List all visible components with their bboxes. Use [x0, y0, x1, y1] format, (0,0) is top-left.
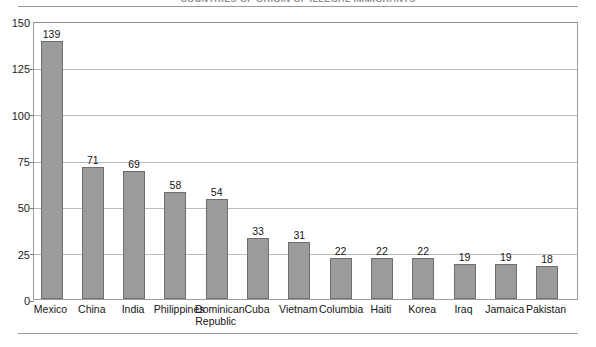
y-axis-tick-label: 125 [12, 63, 30, 75]
y-axis-tick-label: 50 [18, 202, 30, 214]
bar: 139 [41, 41, 63, 299]
bar: 22 [330, 258, 352, 299]
bar: 33 [247, 238, 269, 299]
x-axis-category-label: Iraq [443, 303, 484, 315]
bar: 58 [164, 192, 186, 299]
top-divider-rule [18, 6, 578, 7]
bar-value-label: 22 [335, 245, 347, 257]
x-axis-category-label: India [112, 303, 153, 315]
x-axis-category-label: Vietnam [278, 303, 319, 315]
bar-value-label: 19 [500, 251, 512, 263]
y-axis-tick-label: 25 [18, 249, 30, 261]
y-axis-tick-mark [30, 208, 34, 209]
bar: 19 [495, 264, 517, 299]
bar: 31 [288, 242, 310, 299]
y-axis-tick-mark [30, 254, 34, 255]
x-axis-category-label: Haiti [360, 303, 401, 315]
bar: 18 [536, 266, 558, 299]
bottom-divider-rule [18, 333, 578, 334]
x-axis-category-label: Columbia [319, 303, 360, 315]
gridline [34, 115, 577, 116]
bar-value-label: 19 [459, 251, 471, 263]
x-axis-category-label: China [71, 303, 112, 315]
bar-value-label: 58 [170, 179, 182, 191]
y-axis-tick-mark [30, 115, 34, 116]
bar-value-label: 71 [87, 154, 99, 166]
y-axis-tick-mark [30, 162, 34, 163]
gridline [34, 208, 577, 209]
bar: 22 [412, 258, 434, 299]
bar-value-label: 18 [541, 253, 553, 265]
x-axis-category-label: Jamaica [484, 303, 525, 315]
bar-value-label: 33 [252, 225, 264, 237]
x-axis-category-label: Philippines [154, 303, 195, 315]
y-axis-tick-mark [30, 69, 34, 70]
bar-value-label: 54 [211, 186, 223, 198]
bar: 71 [82, 167, 104, 299]
y-axis-tick-label: 150 [12, 17, 30, 29]
bar-value-label: 69 [128, 158, 140, 170]
bar-value-label: 22 [376, 245, 388, 257]
y-axis-tick-mark [30, 301, 34, 302]
bar-value-label: 31 [293, 229, 305, 241]
y-axis-tick-label: 100 [12, 110, 30, 122]
bar: 69 [123, 171, 145, 299]
bar: 22 [371, 258, 393, 299]
y-axis-tick-label: 75 [18, 156, 30, 168]
x-axis-category-label: Mexico [30, 303, 71, 315]
x-axis-category-label: Korea [402, 303, 443, 315]
bar-value-label: 139 [43, 28, 61, 40]
x-axis-category-label: Pakistan [525, 303, 566, 315]
bar: 54 [206, 199, 228, 299]
bar-value-label: 22 [417, 245, 429, 257]
bar: 19 [454, 264, 476, 299]
chart-title: COUNTRIES OF ORIGIN OF ILLEGAL IMMIGRANT… [0, 0, 596, 2]
gridline [34, 162, 577, 163]
x-axis-category-label: Cuba [236, 303, 277, 315]
gridline [34, 69, 577, 70]
x-axis-category-label: Dominican Republic [195, 303, 236, 327]
plot-area: 0255075100125150139716958543331222222191… [33, 22, 578, 300]
